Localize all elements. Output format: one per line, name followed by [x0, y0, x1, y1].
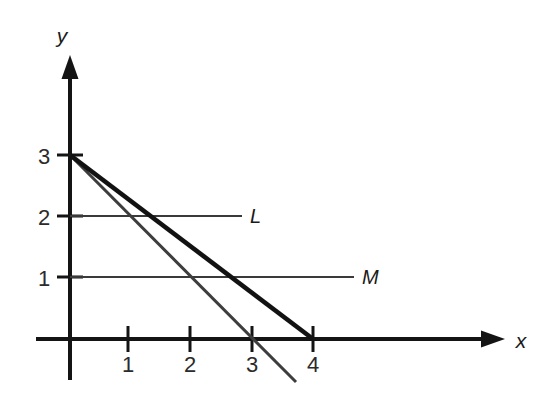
y-tick-label-3: 3: [38, 144, 50, 169]
x-axis-label: x: [515, 329, 528, 352]
line-m-label: M: [362, 266, 379, 288]
y-axis-label: y: [55, 24, 69, 47]
x-tick-label-3: 3: [246, 352, 258, 377]
x-tick-label-1: 1: [122, 352, 134, 377]
x-tick-label-2: 2: [184, 352, 196, 377]
figure-background: [0, 0, 538, 406]
graph-figure: y x 3 2 1 1 2 3 4 L M: [0, 0, 538, 406]
x-tick-label-4: 4: [307, 352, 319, 377]
coordinate-plane-svg: y x 3 2 1 1 2 3 4 L M: [0, 0, 538, 406]
y-tick-label-1: 1: [38, 266, 50, 291]
line-l-label: L: [250, 205, 261, 227]
y-tick-label-2: 2: [38, 205, 50, 230]
